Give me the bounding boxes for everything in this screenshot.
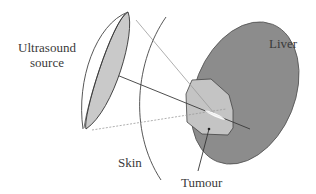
label-liver: Liver [269, 36, 297, 51]
skin-curve [140, 17, 166, 180]
label-ultrasound-source: Ultrasound source [16, 40, 78, 70]
source-lens [86, 12, 130, 129]
label-source-line1: Ultrasound [16, 40, 78, 55]
diagram-canvas [0, 0, 316, 194]
tumour-pointer-dot [208, 128, 211, 131]
label-source-line2: source [16, 55, 78, 70]
label-tumour: Tumour [181, 175, 222, 190]
label-skin: Skin [118, 155, 142, 170]
